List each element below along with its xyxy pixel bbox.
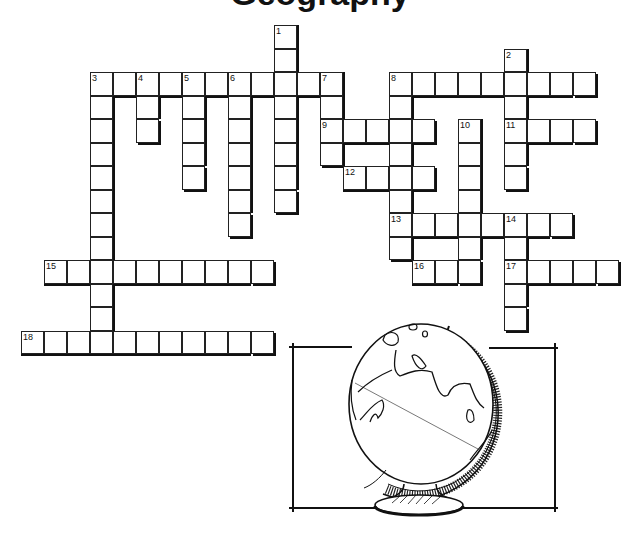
crossword-cell[interactable] <box>159 331 182 355</box>
cell-input[interactable] <box>528 120 549 142</box>
cell-input[interactable] <box>183 144 204 166</box>
cell-input[interactable] <box>321 120 342 142</box>
crossword-cell[interactable] <box>343 119 366 143</box>
cell-input[interactable] <box>183 261 204 283</box>
cell-input[interactable] <box>206 261 227 283</box>
crossword-cell[interactable] <box>435 260 458 284</box>
cell-input[interactable] <box>229 167 250 189</box>
cell-input[interactable] <box>91 97 112 119</box>
cell-input[interactable] <box>137 97 158 119</box>
crossword-cell[interactable] <box>274 143 297 167</box>
crossword-cell[interactable] <box>251 260 274 284</box>
crossword-cell[interactable] <box>458 72 481 96</box>
cell-input[interactable] <box>45 261 66 283</box>
cell-input[interactable] <box>344 120 365 142</box>
crossword-cell[interactable] <box>504 96 527 120</box>
cell-input[interactable] <box>413 167 434 189</box>
crossword-cell[interactable] <box>136 96 159 120</box>
crossword-cell[interactable] <box>251 331 274 355</box>
cell-input[interactable] <box>137 332 158 354</box>
crossword-cell[interactable] <box>274 166 297 190</box>
crossword-cell[interactable] <box>90 260 113 284</box>
crossword-cell[interactable]: 11 <box>504 119 527 143</box>
crossword-cell[interactable] <box>458 213 481 237</box>
crossword-cell[interactable] <box>274 190 297 214</box>
cell-input[interactable] <box>505 285 526 307</box>
cell-input[interactable] <box>390 144 411 166</box>
cell-input[interactable] <box>482 73 503 95</box>
crossword-cell[interactable] <box>251 72 274 96</box>
cell-input[interactable] <box>183 120 204 142</box>
crossword-cell[interactable] <box>205 260 228 284</box>
cell-input[interactable] <box>91 261 112 283</box>
cell-input[interactable] <box>367 167 388 189</box>
cell-input[interactable] <box>436 214 457 236</box>
crossword-cell[interactable]: 10 <box>458 119 481 143</box>
cell-input[interactable] <box>275 120 296 142</box>
cell-input[interactable] <box>459 261 480 283</box>
cell-input[interactable] <box>505 120 526 142</box>
cell-input[interactable] <box>390 238 411 260</box>
crossword-cell[interactable]: 7 <box>320 72 343 96</box>
crossword-cell[interactable] <box>435 213 458 237</box>
crossword-cell[interactable] <box>228 260 251 284</box>
cell-input[interactable] <box>229 144 250 166</box>
crossword-cell[interactable] <box>228 331 251 355</box>
cell-input[interactable] <box>551 214 572 236</box>
crossword-cell[interactable] <box>550 72 573 96</box>
crossword-cell[interactable] <box>228 96 251 120</box>
cell-input[interactable] <box>505 261 526 283</box>
cell-input[interactable] <box>183 332 204 354</box>
crossword-cell[interactable] <box>550 119 573 143</box>
crossword-cell[interactable]: 2 <box>504 49 527 73</box>
crossword-cell[interactable] <box>550 260 573 284</box>
cell-input[interactable] <box>91 167 112 189</box>
cell-input[interactable] <box>160 261 181 283</box>
cell-input[interactable] <box>91 238 112 260</box>
cell-input[interactable] <box>459 214 480 236</box>
cell-input[interactable] <box>528 214 549 236</box>
cell-input[interactable] <box>275 144 296 166</box>
cell-input[interactable] <box>551 261 572 283</box>
cell-input[interactable] <box>137 120 158 142</box>
crossword-cell[interactable] <box>366 166 389 190</box>
crossword-cell[interactable] <box>389 166 412 190</box>
cell-input[interactable] <box>505 238 526 260</box>
crossword-cell[interactable] <box>458 166 481 190</box>
cell-input[interactable] <box>160 332 181 354</box>
cell-input[interactable] <box>574 73 595 95</box>
crossword-cell[interactable] <box>44 331 67 355</box>
cell-input[interactable] <box>160 73 181 95</box>
crossword-cell[interactable]: 5 <box>182 72 205 96</box>
crossword-cell[interactable] <box>90 143 113 167</box>
crossword-cell[interactable] <box>90 96 113 120</box>
crossword-cell[interactable] <box>573 260 596 284</box>
cell-input[interactable] <box>413 214 434 236</box>
cell-input[interactable] <box>413 120 434 142</box>
crossword-cell[interactable] <box>67 260 90 284</box>
crossword-cell[interactable] <box>389 96 412 120</box>
cell-input[interactable] <box>91 308 112 330</box>
crossword-cell[interactable] <box>320 96 343 120</box>
cell-input[interactable] <box>597 261 618 283</box>
cell-input[interactable] <box>459 191 480 213</box>
cell-input[interactable] <box>229 120 250 142</box>
cell-input[interactable] <box>183 167 204 189</box>
crossword-cell[interactable] <box>573 72 596 96</box>
crossword-cell[interactable] <box>90 166 113 190</box>
crossword-cell[interactable] <box>458 143 481 167</box>
cell-input[interactable] <box>528 73 549 95</box>
cell-input[interactable] <box>505 73 526 95</box>
cell-input[interactable] <box>505 167 526 189</box>
crossword-cell[interactable] <box>159 260 182 284</box>
crossword-cell[interactable] <box>527 119 550 143</box>
cell-input[interactable] <box>22 332 43 354</box>
crossword-cell[interactable] <box>159 72 182 96</box>
cell-input[interactable] <box>183 73 204 95</box>
crossword-cell[interactable] <box>504 284 527 308</box>
cell-input[interactable] <box>252 261 273 283</box>
cell-input[interactable] <box>275 191 296 213</box>
crossword-cell[interactable] <box>366 119 389 143</box>
crossword-cell[interactable] <box>412 72 435 96</box>
cell-input[interactable] <box>505 97 526 119</box>
